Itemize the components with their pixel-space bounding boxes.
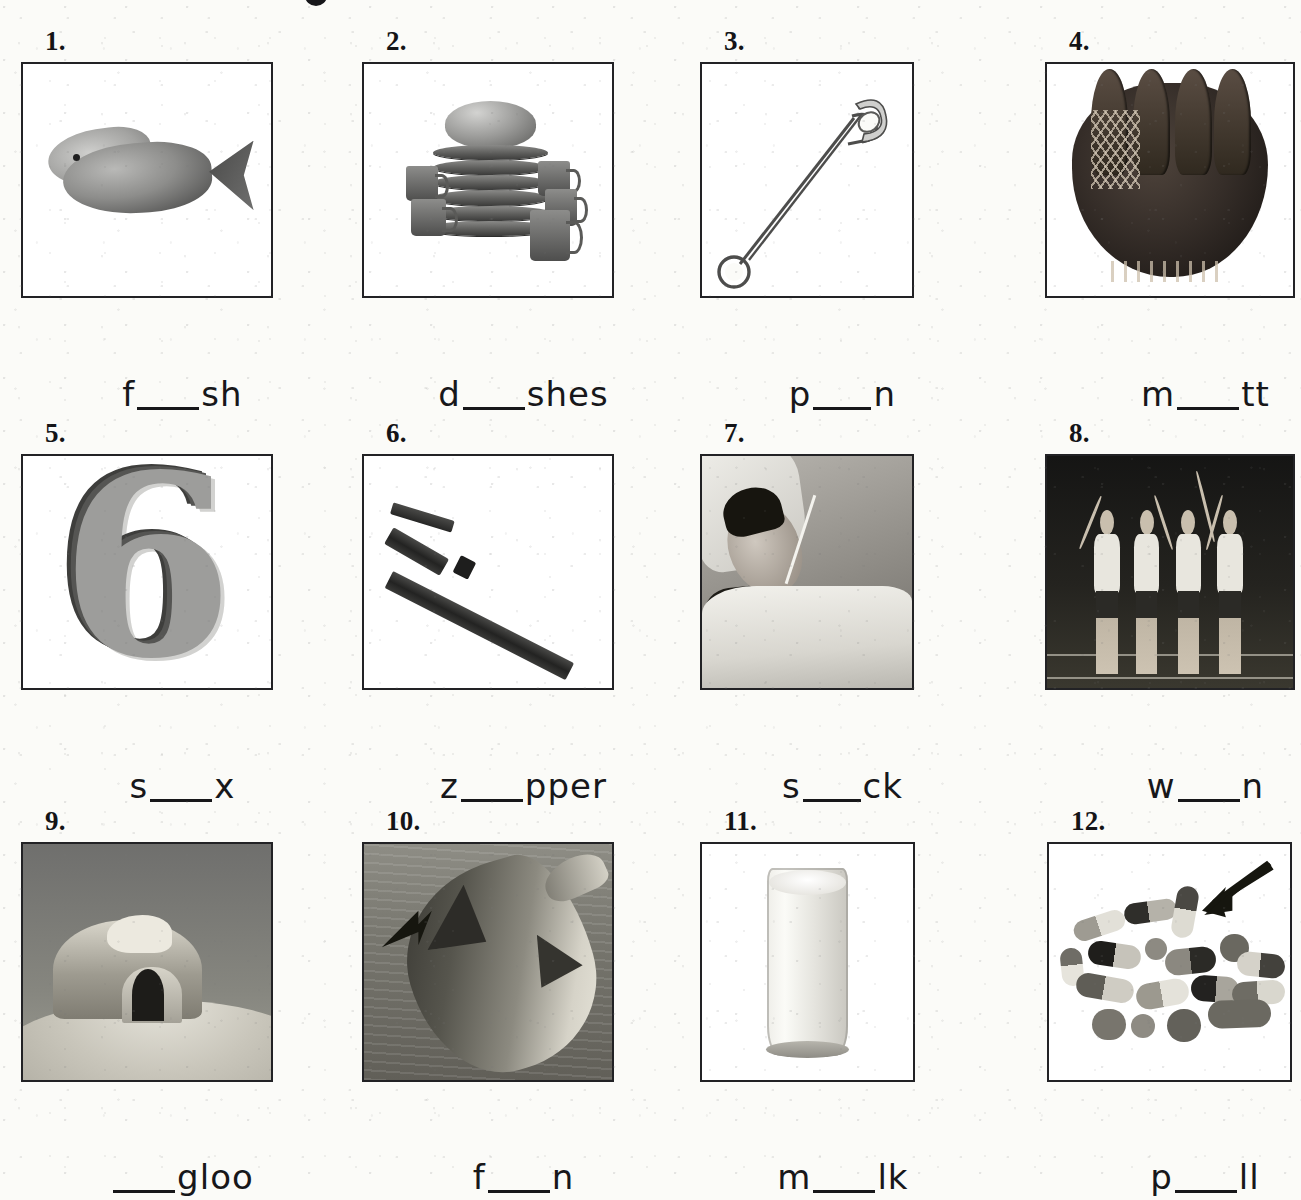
item-number-12: 12.	[1071, 808, 1105, 835]
word-prompt-11: mlk	[700, 1126, 915, 1200]
picture-box-5: 6	[21, 454, 273, 690]
picture-box-2	[362, 62, 614, 298]
item-number-4: 4.	[1069, 28, 1090, 55]
answer-blank[interactable]	[463, 407, 525, 410]
igloo-photo	[23, 844, 271, 1080]
answer-blank[interactable]	[813, 1190, 875, 1193]
worksheet-item-3: 3. pn	[700, 28, 914, 388]
word-prefix: s	[782, 766, 801, 806]
worksheet-item-6: 6. zpper	[362, 420, 614, 780]
word-prefix: p	[1150, 1157, 1173, 1197]
word-prefix: w	[1147, 766, 1176, 806]
baseball-mitt-photo	[1047, 64, 1293, 296]
word-prompt-9: gloo	[21, 1126, 273, 1200]
word-suffix: x	[214, 766, 235, 806]
item-number-5: 5.	[45, 420, 66, 447]
item-number-6: 6.	[386, 420, 407, 447]
worksheet-item-9: 9. gloo	[21, 808, 273, 1168]
answer-blank[interactable]	[1177, 407, 1239, 410]
answer-blank[interactable]	[1178, 799, 1240, 802]
word-prefix: f	[122, 374, 135, 414]
word-prompt-12: pll	[1047, 1126, 1292, 1200]
word-prefix: s	[130, 766, 149, 806]
item-number-11: 11.	[724, 808, 757, 835]
word-prefix: f	[473, 1157, 486, 1197]
worksheet-item-5: 5. 6 sx	[21, 420, 273, 780]
worksheet-item-12: 12.	[1047, 808, 1292, 1168]
number-six-photo: 6	[23, 454, 271, 682]
word-suffix: lk	[877, 1157, 908, 1197]
dishes-photo	[364, 64, 612, 296]
answer-blank[interactable]	[488, 1190, 550, 1193]
word-prefix: m	[777, 1157, 811, 1197]
picture-box-4	[1045, 62, 1295, 298]
item-number-10: 10.	[386, 808, 420, 835]
worksheet-item-7: 7. sck	[700, 420, 914, 780]
worksheet-item-1: 1. fsh	[21, 28, 273, 388]
worksheet-item-2: 2. dshes	[362, 28, 614, 388]
picture-box-8	[1045, 454, 1295, 690]
word-suffix: ck	[863, 766, 903, 806]
picture-box-11	[700, 842, 915, 1082]
picture-box-3	[700, 62, 914, 298]
word-suffix: pper	[525, 766, 607, 806]
item-number-9: 9.	[45, 808, 66, 835]
word-suffix: ll	[1239, 1157, 1260, 1197]
picture-box-6	[362, 454, 614, 690]
picture-box-7	[700, 454, 914, 690]
item-number-2: 2.	[386, 28, 407, 55]
word-suffix: gloo	[177, 1157, 254, 1197]
worksheet-item-10: 10. fn	[362, 808, 614, 1168]
item-number-1: 1.	[45, 28, 66, 55]
word-suffix: sh	[201, 374, 242, 414]
picture-box-9	[21, 842, 273, 1082]
milk-glass-photo	[702, 844, 913, 1080]
picture-box-1	[21, 62, 273, 298]
item-number-3: 3.	[724, 28, 745, 55]
runners-photo	[1047, 456, 1293, 688]
answer-blank[interactable]	[813, 407, 871, 410]
worksheet-item-4: 4. mtt	[1045, 28, 1295, 388]
fish-photo	[23, 64, 271, 296]
word-suffix: tt	[1241, 374, 1270, 414]
answer-blank[interactable]	[137, 407, 199, 410]
word-suffix: shes	[527, 374, 609, 414]
word-prompt-10: fn	[362, 1126, 614, 1200]
worksheet-item-11: 11. mlk	[700, 808, 915, 1168]
word-prefix: d	[438, 374, 461, 414]
word-suffix: n	[552, 1157, 575, 1197]
zipper-photo	[364, 456, 612, 688]
worksheet-item-8: 8.	[1045, 420, 1295, 780]
answer-blank[interactable]	[1175, 1190, 1237, 1193]
answer-blank[interactable]	[461, 799, 523, 802]
item-number-8: 8.	[1069, 420, 1090, 447]
picture-box-12	[1047, 842, 1292, 1082]
answer-blank[interactable]	[150, 799, 212, 802]
item-number-7: 7.	[724, 420, 745, 447]
safety-pin-photo	[702, 64, 912, 296]
picture-box-10	[362, 842, 614, 1082]
word-prefix: p	[789, 374, 812, 414]
pills-photo	[1049, 844, 1290, 1080]
answer-blank[interactable]	[113, 1190, 175, 1193]
word-suffix: n	[1242, 766, 1265, 806]
word-prefix: z	[440, 766, 459, 806]
answer-blank[interactable]	[803, 799, 861, 802]
pointer-arrow-icon	[1189, 858, 1276, 929]
word-prefix: m	[1141, 374, 1175, 414]
dolphin-photo	[364, 844, 612, 1080]
word-suffix: n	[873, 374, 896, 414]
pointer-arrow-icon	[379, 905, 439, 957]
sick-man-photo	[702, 456, 912, 688]
